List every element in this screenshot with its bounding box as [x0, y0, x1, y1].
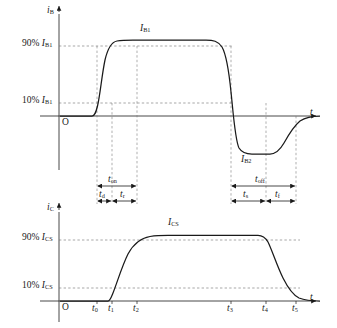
top-time-axis-label: t	[310, 108, 313, 118]
interval-label-td: td	[99, 190, 105, 200]
x-tick-label-t0: t0	[92, 304, 98, 314]
base-current-curve	[60, 40, 320, 154]
collector-current-curve	[60, 235, 320, 301]
x-tick-label-t4: t4	[262, 304, 268, 314]
top-plot-axes	[40, 6, 316, 170]
interval-arrows	[98, 186, 295, 201]
bottom-y-axis-label: iC	[47, 203, 54, 213]
interval-label-toff: toff	[255, 175, 265, 185]
top-plot-gridlines	[59, 46, 232, 103]
y-tick-90-percent-ib1: 90% IB1	[22, 39, 52, 49]
x-tick-label-t5: t5	[292, 304, 298, 314]
interval-label-ton: ton	[108, 175, 117, 185]
x-tick-label-t3: t3	[227, 304, 233, 314]
top-y-axis-label: iB	[47, 6, 54, 16]
switching-waveform-figure	[0, 0, 337, 328]
curve-label-ib2: IB2	[241, 155, 251, 165]
time-marker-lines	[97, 46, 296, 204]
interval-label-tr: tr	[120, 190, 125, 200]
x-tick-label-t2: t2	[133, 304, 139, 314]
curve-label-ics: ICS	[168, 218, 179, 228]
y-tick-10-percent-ics: 10% ICS	[22, 281, 53, 291]
top-origin-label: O	[62, 118, 69, 128]
curve-label-ib1: IB1	[140, 24, 150, 34]
y-tick-90-percent-ics: 90% ICS	[22, 233, 53, 243]
bottom-plot-gridlines	[59, 240, 300, 288]
interval-label-ts: ts	[243, 190, 248, 200]
bottom-origin-label: O	[62, 303, 69, 313]
x-tick-label-t1: t1	[108, 304, 114, 314]
bottom-time-axis-label: t	[310, 293, 313, 303]
y-tick-10-percent-ib1: 10% IB1	[22, 96, 52, 106]
interval-label-tf: tf	[275, 190, 280, 200]
